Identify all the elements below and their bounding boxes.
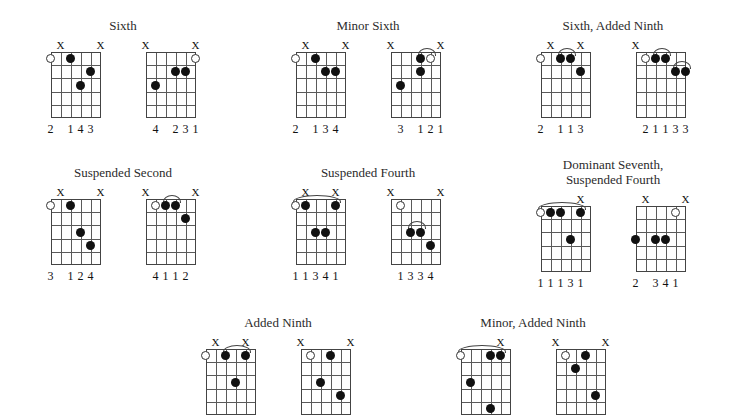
fretted-note-dot <box>86 241 95 250</box>
string-line <box>186 200 187 264</box>
muted-string-icon: X <box>346 336 355 348</box>
muted-string-icon: X <box>211 336 220 348</box>
chord-group-title: Dominant Seventh,Suspended Fourth <box>498 157 728 187</box>
muted-string-icon: X <box>56 39 65 51</box>
finger-number: 3 <box>406 269 416 283</box>
muted-string-icon: X <box>141 39 150 51</box>
string-line <box>61 200 62 264</box>
fret-line <box>542 105 590 106</box>
finger-number: 2 <box>426 122 436 136</box>
finger-number: 4 <box>426 269 436 283</box>
fretted-note-dot <box>591 391 600 400</box>
fret-line <box>392 252 440 253</box>
finger-number: 3 <box>681 122 691 136</box>
muted-string-icon: X <box>546 39 555 51</box>
string-marker-row: XX <box>123 39 218 52</box>
fret-line <box>297 252 345 253</box>
finger-number: 1 <box>546 276 556 290</box>
dominant-seventh-suspended-fourth-voicing-1: X11131 <box>518 193 613 285</box>
string-marker-row: XX <box>613 193 708 206</box>
fret-line <box>557 389 605 390</box>
chord-group: Sixth, Added NinthXX2113X21133 <box>498 18 728 131</box>
chord-diagram: XX2341 <box>613 193 708 285</box>
fretted-note-dot <box>396 81 405 90</box>
finger-number: 1 <box>436 122 446 136</box>
finger-number: 4 <box>76 122 86 136</box>
finger-number: 4 <box>151 122 161 136</box>
fret-line <box>637 246 685 247</box>
fret-line <box>207 402 255 403</box>
fret-line <box>392 92 440 93</box>
fretted-note-dot <box>631 235 640 244</box>
chord-diagram-row: XX11341XX1334 <box>253 186 483 278</box>
finger-number: 4 <box>321 269 331 283</box>
fret-line <box>147 239 195 240</box>
chord-diagram: X <box>438 336 533 419</box>
finger-number: 2 <box>181 269 191 283</box>
chord-diagram: XX4231 <box>123 39 218 131</box>
string-line <box>551 53 552 117</box>
finger-number-row: 4231 <box>123 122 218 136</box>
chord-diagram: XX3124 <box>28 186 123 278</box>
fret-line <box>52 252 100 253</box>
fretted-note-dot <box>406 228 415 237</box>
string-line <box>411 53 412 117</box>
suspended-fourth-voicing-2: XX1334 <box>368 186 463 278</box>
finger-number: 3 <box>576 122 586 136</box>
finger-number: 1 <box>311 122 321 136</box>
muted-string-icon: X <box>301 39 310 51</box>
fret-line <box>297 105 345 106</box>
finger-number-row: 3124 <box>28 269 123 283</box>
finger-number-row: 2143 <box>28 122 123 136</box>
fret-line <box>297 65 345 66</box>
chord-group-title: Minor, Added Ninth <box>418 315 648 330</box>
fretted-note-dot <box>661 235 670 244</box>
finger-number-row: 2113 <box>518 122 613 136</box>
finger-number: 2 <box>76 269 86 283</box>
fret-line <box>392 65 440 66</box>
fretted-note-dot <box>416 228 425 237</box>
fret-line <box>557 402 605 403</box>
added-ninth-voicing-1: XX <box>183 336 278 419</box>
muted-string-icon: X <box>96 39 105 51</box>
suspended-fourth-voicing-1: XX11341 <box>273 186 368 278</box>
fretted-note-dot <box>76 81 85 90</box>
fretted-note-dot <box>311 228 320 237</box>
chord-diagram: XX3121 <box>368 39 463 131</box>
dominant-seventh-suspended-fourth-voicing-2: XX2341 <box>613 193 708 285</box>
string-line <box>166 53 167 117</box>
chord-group: Suspended FourthXX11341XX1334 <box>253 165 483 278</box>
string-line <box>306 53 307 117</box>
finger-number: 1 <box>661 122 671 136</box>
string-line <box>481 350 482 414</box>
chord-diagram: XX2134 <box>273 39 368 131</box>
fret-line <box>297 212 345 213</box>
muted-string-icon: X <box>341 39 350 51</box>
fret-line <box>52 239 100 240</box>
string-line <box>336 53 337 117</box>
muted-string-icon: X <box>681 193 690 205</box>
string-line <box>431 200 432 264</box>
fret-line <box>147 65 195 66</box>
minor-added-ninth-voicing-2: XX <box>533 336 628 419</box>
string-line <box>326 53 327 117</box>
finger-number: 3 <box>181 122 191 136</box>
fret-line <box>557 362 605 363</box>
finger-number-row: 2134 <box>273 122 368 136</box>
finger-number: 2 <box>631 276 641 290</box>
finger-number: 3 <box>416 269 426 283</box>
string-marker-row: XX <box>28 186 123 199</box>
chord-group-title: Minor Sixth <box>253 18 483 33</box>
fret-line <box>207 389 255 390</box>
string-marker-row: XX <box>273 39 368 52</box>
fretted-note-dot <box>651 235 660 244</box>
string-line <box>576 350 577 414</box>
chord-diagram: XX <box>278 336 373 419</box>
finger-number: 2 <box>291 122 301 136</box>
muted-string-icon: X <box>141 186 150 198</box>
fret-line <box>637 259 685 260</box>
muted-string-icon: X <box>56 186 65 198</box>
chord-group: Added NinthXXXX <box>163 315 393 419</box>
fret-line <box>52 65 100 66</box>
finger-number: 2 <box>171 122 181 136</box>
